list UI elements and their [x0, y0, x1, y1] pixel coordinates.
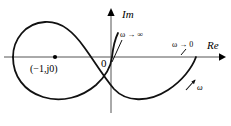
nyquist-plot-figure: Im Re 0 (−1,j0) ω → ∞ ω → 0 ω [0, 0, 231, 126]
omega-direction-label: ω [197, 84, 203, 92]
critical-point-marker [53, 55, 57, 59]
omega-zero-leader-line [181, 49, 186, 55]
omega-to-zero-label: ω → 0 [172, 41, 193, 49]
real-axis-arrowhead [219, 53, 226, 61]
omega-to-infinity-label: ω → ∞ [120, 31, 143, 39]
imaginary-axis-arrowhead [107, 8, 114, 16]
origin-label: 0 [101, 58, 107, 69]
real-axis-label: Re [207, 40, 219, 51]
imaginary-axis-label: Im [122, 9, 134, 20]
critical-point-label: (−1,j0) [30, 64, 58, 74]
omega-direction-arrow [186, 79, 196, 90]
